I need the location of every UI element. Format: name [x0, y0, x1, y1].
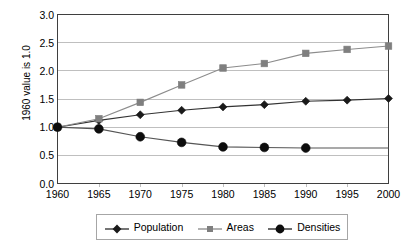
data-point-square [344, 46, 351, 53]
data-point-circle [260, 143, 269, 152]
chart-legend: PopulationAreasDensities [96, 214, 348, 240]
legend-entry-areas[interactable]: Areas [195, 221, 256, 233]
series-line [58, 46, 389, 127]
data-point-diamond [302, 97, 310, 105]
data-point-circle [53, 123, 62, 132]
square-glyph [207, 226, 213, 232]
data-point-diamond [260, 101, 268, 109]
data-point-diamond [136, 111, 144, 119]
diamond-marker-icon [104, 221, 130, 233]
data-point-square [261, 60, 268, 67]
data-point-circle [301, 144, 310, 153]
series-areas [54, 43, 392, 131]
data-point-diamond [219, 103, 227, 111]
legend-entry-population[interactable]: Population [102, 221, 186, 233]
diamond-glyph [112, 225, 121, 234]
data-point-square [137, 99, 144, 106]
data-point-circle [94, 124, 103, 133]
circle-marker-icon [267, 221, 293, 233]
plot-area [0, 0, 418, 250]
data-point-circle [219, 142, 228, 151]
data-point-diamond [178, 106, 186, 114]
data-point-square [178, 82, 185, 89]
legend-entry-densities[interactable]: Densities [265, 221, 342, 233]
data-point-diamond [343, 96, 351, 104]
legend-label: Densities [297, 222, 340, 233]
data-point-square [302, 50, 309, 57]
circle-glyph [276, 225, 285, 234]
data-point-square [96, 115, 103, 122]
legend-label: Population [134, 222, 184, 233]
data-point-square [385, 43, 392, 50]
series-population [54, 94, 393, 131]
data-point-circle [177, 138, 186, 147]
data-point-square [220, 65, 227, 72]
line-chart: 1960 value is 1.0 0.00.51.01.52.02.53.0 … [0, 0, 418, 250]
data-point-diamond [385, 94, 393, 102]
legend-label: Areas [227, 222, 254, 233]
data-point-circle [136, 132, 145, 141]
square-marker-icon [197, 221, 223, 233]
